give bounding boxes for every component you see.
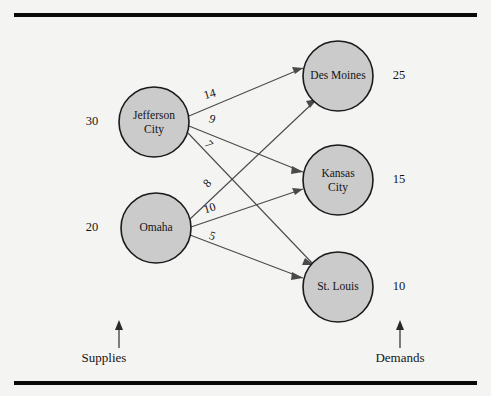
demand-amount-kansas-city: 15 [393, 172, 406, 186]
node-label-st-louis-line1: St. Louis [317, 280, 359, 292]
node-label-omaha-line1: Omaha [139, 221, 172, 233]
supplies-caption: Supplies [82, 350, 127, 365]
node-label-jefferson-city-line1: Jefferson [133, 109, 175, 121]
edge-cost-om-dm: 8 [200, 176, 214, 190]
edge-omaha-to-st-louis [190, 235, 303, 280]
supply-amount-omaha: 20 [86, 220, 99, 234]
edge-cost-jc-kc: 9 [207, 111, 217, 126]
demand-node-kansas-city[interactable]: Kansas City [303, 145, 373, 215]
demand-node-des-moines[interactable]: Des Moines [303, 41, 373, 111]
demands-caption-group: Demands [375, 320, 424, 365]
edge-cost-om-stl: 5 [207, 228, 217, 243]
edge-cost-label-group: 14 9 7 8 10 5 [200, 85, 218, 243]
node-label-jefferson-city-line2: City [144, 123, 164, 136]
figure-canvas: 14 9 7 8 10 5 Jefferson City Omaha Des M… [0, 0, 491, 396]
demand-node-st-louis[interactable]: St. Louis [303, 252, 373, 322]
network-diagram: 14 9 7 8 10 5 Jefferson City Omaha Des M… [0, 0, 491, 396]
edge-cost-jc-stl: 7 [202, 137, 216, 151]
demand-amount-st-louis: 10 [393, 279, 406, 293]
supplies-caption-group: Supplies [82, 320, 127, 365]
supply-node-omaha[interactable]: Omaha [121, 193, 191, 263]
edge-cost-jc-dm: 14 [202, 85, 217, 102]
demands-arrow-icon [396, 320, 404, 330]
demand-amount-des-moines: 25 [393, 68, 406, 82]
demands-caption: Demands [375, 350, 424, 365]
node-label-kansas-city-line2: City [328, 181, 348, 194]
node-label-kansas-city-line1: Kansas [321, 167, 355, 179]
supply-node-jefferson-city[interactable]: Jefferson City [119, 87, 189, 157]
supply-amount-jefferson-city: 30 [86, 114, 99, 128]
supplies-arrow-icon [115, 320, 123, 330]
edge-cost-om-kc: 10 [202, 199, 218, 216]
node-label-des-moines-line1: Des Moines [310, 69, 366, 81]
edge-jefferson-city-to-st-louis [188, 133, 314, 265]
